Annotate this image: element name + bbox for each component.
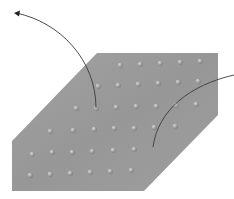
bump [30,152,35,157]
bump [176,80,181,85]
bump [132,147,137,152]
bump [50,150,55,155]
bump [132,126,137,131]
bump [74,106,79,111]
bump [28,173,33,178]
bump [96,84,101,89]
bump [48,172,53,177]
bump [156,81,161,86]
bump [108,169,113,174]
bump [158,61,163,66]
bump [48,129,53,134]
bump [152,125,157,130]
textured-surface-diagram [0,0,234,199]
bump [134,104,139,109]
bump [70,150,75,155]
bump [90,149,95,154]
bump [116,83,121,88]
bump [196,79,201,84]
bump [88,170,93,175]
textured-surface-panel [12,53,218,191]
bump [112,126,117,131]
bump [118,63,123,68]
bump [194,102,199,107]
bump [173,124,178,129]
bump [92,127,97,132]
bump [138,62,143,67]
arrowhead-icon [14,11,20,17]
bump [178,60,183,65]
diagram-canvas [0,0,234,199]
bump [154,104,159,109]
bump [71,128,76,133]
bump [68,171,73,176]
bump [136,82,141,87]
bump [129,168,134,173]
bump [198,59,203,64]
bump [114,105,119,110]
bump [111,148,116,153]
